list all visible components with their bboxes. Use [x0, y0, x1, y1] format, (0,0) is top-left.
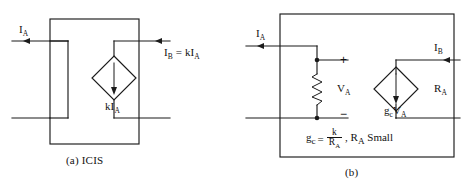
panel-b-plus-sign: +: [340, 54, 347, 66]
formula-lhs: gc: [306, 131, 316, 146]
panel-a-input-current-arrow: [23, 38, 30, 44]
panel-b-input-current-arrow: [257, 43, 264, 49]
panel-b-source-label: gcVA: [384, 105, 407, 119]
panel-b-formula: gc = k RA , RA Small: [306, 128, 393, 150]
panel-b-voltage-label: VA: [337, 83, 351, 97]
panel-b-resistance-label: RA: [434, 83, 447, 97]
panel-b-caption: (b): [345, 166, 358, 178]
panel-a-source-label: kIA: [105, 101, 120, 115]
panel-b-source-arrow-head: [393, 96, 399, 104]
panel-a-output-current-arrow: [155, 38, 162, 44]
panel-b-output-current-label: IB: [434, 42, 443, 56]
panel-a-source-arrow-head: [111, 87, 117, 95]
panel-b-input-current-label: IA: [256, 28, 265, 42]
panel-a-output-current-label: IB = kIA: [164, 47, 200, 61]
circuit-figure: IA IB = kIA kIA (a) ICIS IA IB RA + VA −…: [0, 0, 471, 189]
panel-b-resistor-symbol: [312, 74, 322, 105]
formula-denominator: RA: [327, 137, 342, 149]
formula-equals: =: [318, 133, 324, 145]
formula-numerator: k: [327, 128, 342, 138]
panel-a-caption: (a) ICIS: [66, 154, 103, 166]
panel-a-graphics: [12, 19, 170, 144]
formula-fraction: k RA: [327, 128, 342, 150]
formula-tail: , RA Small: [345, 131, 393, 146]
panel-a-outer-box: [50, 19, 139, 144]
panel-a-input-current-label: IA: [19, 24, 28, 38]
panel-b-minus-sign: −: [340, 108, 347, 120]
panel-b-output-current-arrow: [443, 57, 450, 63]
